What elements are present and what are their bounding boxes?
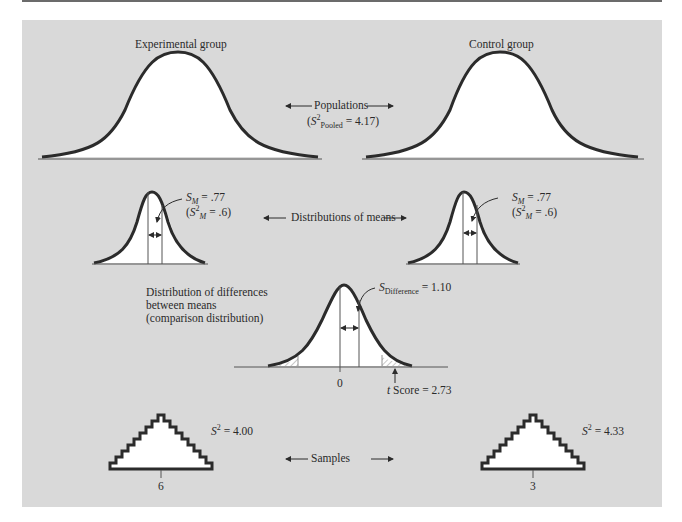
experimental-population-curve bbox=[38, 52, 322, 159]
t-score-label: t Score = 2.73 bbox=[387, 384, 452, 397]
distributions-of-means-label: Distributions of means bbox=[291, 211, 396, 224]
experimental-sample-mean-label: 6 bbox=[158, 480, 164, 493]
experimental-sample-histogram bbox=[110, 415, 212, 478]
comparison-title-line2: between means bbox=[146, 299, 217, 312]
control-population-curve bbox=[362, 52, 644, 159]
comparison-title-line1: Distribution of differences bbox=[146, 286, 268, 299]
experimental-sample-variance-label: S2 = 4.00 bbox=[211, 423, 253, 438]
s-difference-label: SDifference = 1.10 bbox=[379, 281, 451, 296]
control-sm2-label: (S2M = .6) bbox=[512, 204, 557, 221]
control-sample-histogram bbox=[482, 415, 584, 478]
t-test-diagram bbox=[0, 0, 682, 522]
populations-label: Populations bbox=[314, 99, 368, 112]
control-sample-variance-label: S2 = 4.33 bbox=[582, 423, 624, 438]
experimental-group-label: Experimental group bbox=[135, 38, 227, 51]
samples-label: Samples bbox=[311, 452, 350, 465]
zero-tick-label: 0 bbox=[337, 377, 343, 390]
comparison-distribution-curve bbox=[234, 285, 448, 383]
control-means-curve bbox=[406, 192, 520, 264]
experimental-sm2-label: (S2M = .6) bbox=[186, 204, 231, 221]
control-sample-mean-label: 3 bbox=[530, 480, 536, 493]
control-group-label: Control group bbox=[469, 38, 534, 51]
pooled-variance-label: (S2Pooled = 4.17) bbox=[307, 113, 379, 130]
comparison-title-line3: (comparison distribution) bbox=[146, 312, 263, 325]
